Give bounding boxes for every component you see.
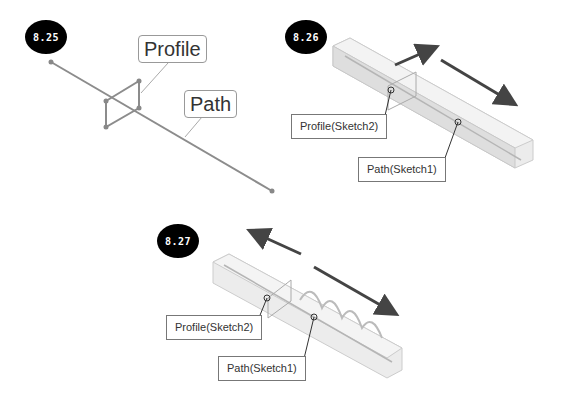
path-sketch1-callout: Path(Sketch1) — [358, 157, 446, 182]
diagram-canvas — [0, 0, 562, 403]
figure-badge-8-25: 8.25 — [25, 20, 67, 54]
path-callout: Path — [184, 90, 237, 118]
figure-badge-8-27: 8.27 — [157, 224, 199, 258]
figure-badge-8-26: 8.26 — [285, 20, 327, 54]
profile-sketch2-callout: Profile(Sketch2) — [291, 114, 387, 139]
profile-callout: Profile — [138, 35, 207, 63]
path-sketch1-callout: Path(Sketch1) — [218, 356, 306, 381]
fig-8-26-solid — [333, 38, 533, 172]
profile-sketch2-callout: Profile(Sketch2) — [166, 315, 262, 340]
fig-8-25-sketch — [49, 60, 275, 194]
